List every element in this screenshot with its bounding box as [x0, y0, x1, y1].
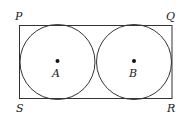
- label-q: Q: [166, 10, 175, 23]
- geometry-diagram: P Q R S A B: [0, 0, 182, 118]
- label-b: B: [128, 67, 137, 80]
- label-a: A: [51, 67, 60, 80]
- label-s: S: [16, 102, 24, 115]
- center-point-a: [56, 59, 60, 63]
- label-p: P: [14, 10, 23, 23]
- label-r: R: [166, 102, 175, 115]
- center-point-b: [132, 59, 136, 63]
- rectangle-pqrs: [20, 26, 173, 99]
